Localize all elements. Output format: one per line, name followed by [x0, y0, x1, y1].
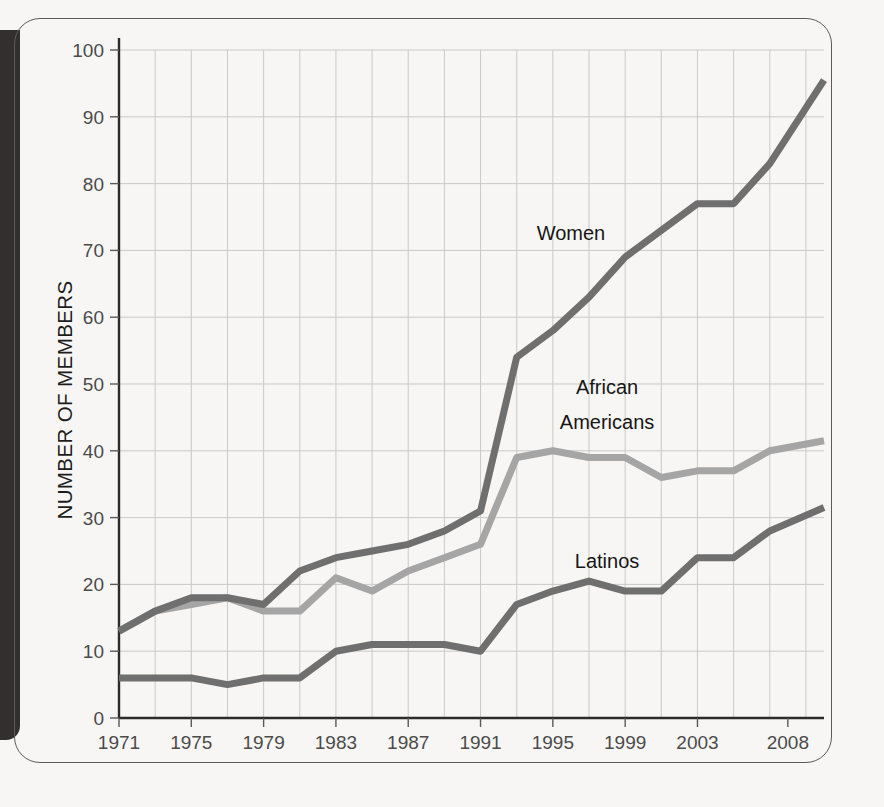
y-axis-title: NUMBER OF MEMBERS — [53, 280, 76, 519]
y-tick-labels: 0102030405060708090100 — [72, 40, 104, 729]
gridlines — [119, 50, 824, 718]
x-tick-label: 1987 — [387, 732, 429, 753]
y-tick-label: 40 — [83, 441, 104, 462]
x-tick-label: 1975 — [170, 732, 212, 753]
axes — [119, 38, 824, 718]
y-tick-label: 100 — [72, 40, 104, 61]
series-annotations: WomenAfricanAmericansLatinos — [537, 222, 655, 571]
x-tick-label: 1995 — [532, 732, 574, 753]
x-tick-label: 1999 — [604, 732, 646, 753]
series-label-women: Women — [537, 222, 606, 244]
data-series-lines — [119, 80, 824, 685]
x-tick-label: 1991 — [459, 732, 501, 753]
x-tick-label: 1983 — [315, 732, 357, 753]
y-tick-label: 70 — [83, 240, 104, 261]
x-tick-label: 1971 — [98, 732, 140, 753]
y-tick-label: 0 — [93, 708, 104, 729]
figure-page: 0102030405060708090100 19711975197919831… — [0, 0, 884, 807]
chart-svg: 0102030405060708090100 19711975197919831… — [0, 0, 884, 807]
series-label-african: African — [576, 376, 638, 398]
y-tick-label: 10 — [83, 641, 104, 662]
y-tick-label: 60 — [83, 307, 104, 328]
y-tick-label: 50 — [83, 374, 104, 395]
y-tick-label: 30 — [83, 508, 104, 529]
line-chart: 0102030405060708090100 19711975197919831… — [0, 0, 884, 807]
series-label-latinos: Latinos — [575, 550, 640, 572]
y-tick-label: 80 — [83, 174, 104, 195]
x-tick-label: 1979 — [242, 732, 284, 753]
series-line-african-americans — [119, 441, 824, 631]
x-tick-label: 2008 — [767, 732, 809, 753]
y-tick-label: 20 — [83, 574, 104, 595]
x-tick-label: 2003 — [676, 732, 718, 753]
tick-marks — [110, 50, 788, 727]
x-tick-labels: 1971197519791983198719911995199920032008 — [98, 732, 809, 753]
y-tick-label: 90 — [83, 107, 104, 128]
series-label-americans: Americans — [560, 411, 654, 433]
